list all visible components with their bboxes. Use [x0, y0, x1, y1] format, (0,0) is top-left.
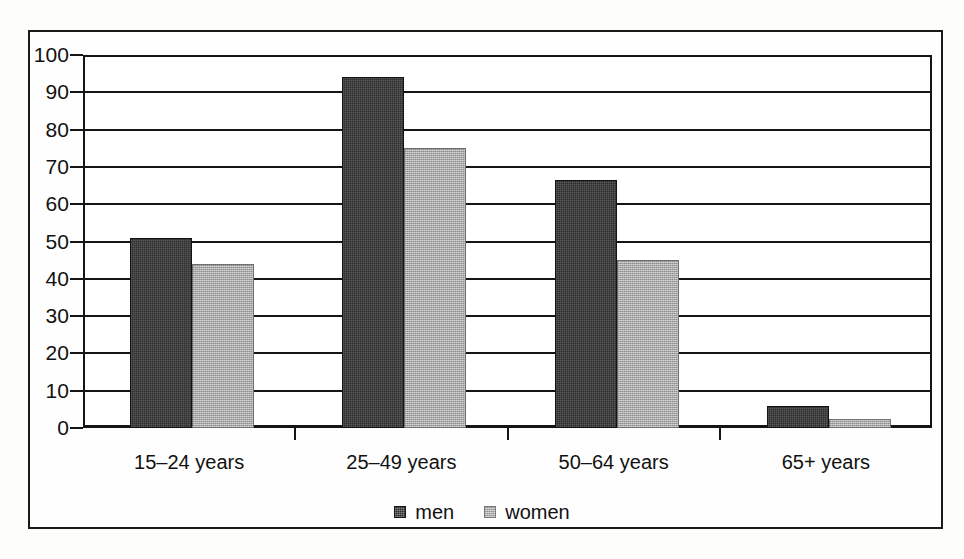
y-axis-tick-label: 70 — [0, 156, 69, 177]
x-axis-tick-label: 65+ years — [782, 450, 870, 474]
y-axis-tick-mark — [70, 278, 83, 280]
y-axis-tick-label: 20 — [0, 342, 69, 363]
x-axis-tick-label: 15–24 years — [134, 450, 244, 474]
y-axis-tick-mark — [70, 54, 83, 56]
y-axis-tick-label: 80 — [0, 119, 69, 140]
y-axis-tick-label: 0 — [0, 417, 69, 438]
legend-swatch-icon — [394, 506, 406, 518]
legend-label: men — [415, 502, 454, 522]
y-axis-tick-mark — [70, 352, 83, 354]
plot-area — [83, 55, 932, 428]
bar-men-2 — [555, 180, 617, 428]
legend-label: women — [505, 502, 569, 522]
bar-men-0 — [130, 238, 192, 428]
y-axis-tick-label: 90 — [0, 81, 69, 102]
bar-women-0 — [192, 264, 254, 428]
y-axis-tick-mark — [70, 203, 83, 205]
x-axis-tick-label: 25–49 years — [346, 450, 456, 474]
chart-figure: 1009080706050403020100 15–24 years25–49 … — [0, 0, 964, 559]
legend-item-men: men — [394, 502, 454, 522]
legend-swatch-icon — [484, 506, 496, 518]
y-axis-tick-label: 60 — [0, 193, 69, 214]
y-axis-tick-label: 50 — [0, 231, 69, 252]
bar-women-3 — [829, 419, 891, 428]
gridline — [83, 166, 932, 168]
x-axis-tick-label: 50–64 years — [559, 450, 669, 474]
y-axis-tick-mark — [70, 166, 83, 168]
y-axis-tick-label: 10 — [0, 380, 69, 401]
gridline — [83, 203, 932, 205]
y-axis-tick-mark — [70, 129, 83, 131]
chart-legend: menwomen — [0, 502, 964, 522]
y-axis-tick-mark — [70, 91, 83, 93]
y-axis-tick-label: 100 — [0, 44, 69, 65]
legend-item-women: women — [484, 502, 569, 522]
gridline — [83, 91, 932, 93]
x-axis-tick-mark — [507, 428, 509, 440]
bar-men-3 — [767, 406, 829, 428]
x-axis-tick-mark — [719, 428, 721, 440]
y-axis-tick-label: 40 — [0, 268, 69, 289]
y-axis-tick-mark — [70, 427, 83, 429]
y-axis-tick-mark — [70, 390, 83, 392]
y-axis-tick-mark — [70, 315, 83, 317]
y-axis-tick-label: 30 — [0, 305, 69, 326]
bar-women-2 — [617, 260, 679, 428]
gridline — [83, 129, 932, 131]
y-axis-tick-mark — [70, 241, 83, 243]
bar-men-1 — [342, 77, 404, 428]
gridline — [83, 241, 932, 243]
x-axis-tick-mark — [294, 428, 296, 440]
bar-women-1 — [404, 148, 466, 428]
